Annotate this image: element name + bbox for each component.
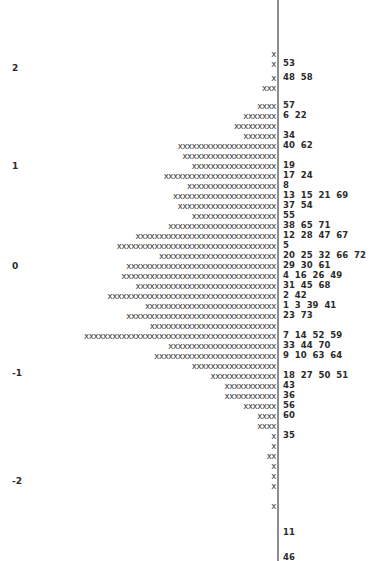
row-leaf-labels: 29 30 61 xyxy=(283,260,330,270)
row-mark-run: xxxxxxxxxxxxxxxxxxxxxxxxxxx xyxy=(150,321,276,331)
row-leaf-labels: 23 73 xyxy=(283,310,313,320)
row-mark-run: xxxxxxxxxxxxxxxxxxxxxxxxxxxxxxxxxxxxxxxx… xyxy=(84,331,276,341)
row-leaf-labels: 9 10 63 64 xyxy=(283,350,342,360)
plot-row: xxxxxxx6 22 xyxy=(0,111,380,121)
plot-row: xxxx57 xyxy=(0,101,380,111)
plot-row: xxxxxxxxxxxxxxxxxxxxxxxx17 24 xyxy=(0,171,380,181)
row-mark-run: xxxxxxxxxxxxxxxxxxxxxxxxxxxxxxxx xyxy=(126,311,276,321)
plot-row: x35 xyxy=(0,431,380,441)
row-mark-run: xxxxxxxxxxx xyxy=(225,391,276,401)
row-leaf-labels: 57 xyxy=(283,100,295,110)
row-leaf-labels: 34 xyxy=(283,130,295,140)
row-mark-run: xxxxxxxxxxxxxxxxxxxxxxxxxxxxxx xyxy=(136,281,276,291)
row-mark-run: x xyxy=(271,73,276,83)
row-mark-run: xxxxxxxxxxxxxxxxxxxxxxxxxxxx xyxy=(145,301,276,311)
row-mark-run: x xyxy=(271,501,276,511)
row-mark-run: xxxxxxxxxxxxxxxxxxx xyxy=(187,181,276,191)
row-leaf-labels: 19 xyxy=(283,160,295,170)
row-leaf-labels: 12 28 47 67 xyxy=(283,230,348,240)
row-leaf-labels: 56 xyxy=(283,400,295,410)
row-mark-run: xxxx xyxy=(257,411,276,421)
row-mark-run: xxxxxxx xyxy=(243,111,276,121)
stem-and-leaf-plot: 210-1-2 xx53x48 58xxxxxxx57xxxxxxx6 22xx… xyxy=(0,0,380,561)
plot-row: 46 xyxy=(0,553,380,561)
row-leaf-labels: 35 xyxy=(283,430,295,440)
row-mark-run: xxxxxxxxxxxxxxxxxxxxxxxxxxxxxxxxxxxx xyxy=(108,291,277,301)
plot-row: x xyxy=(0,49,380,59)
plot-row: xxxxxxxxxxxxxxxxxxxxxxxxxx9 10 63 64 xyxy=(0,351,380,361)
row-leaf-labels: 8 xyxy=(283,180,289,190)
row-leaf-labels: 2 42 xyxy=(283,290,307,300)
plot-row: xxxxxxxxxxxxxx18 27 50 51 xyxy=(0,371,380,381)
plot-row: xxxx60 xyxy=(0,411,380,421)
row-mark-run: xxxxxxx xyxy=(243,401,276,411)
row-leaf-labels: 46 xyxy=(283,552,295,561)
row-leaf-labels: 11 xyxy=(283,527,295,537)
row-mark-run: xxxxxxxxxxxxxxxxxxxxxxxxx xyxy=(159,251,276,261)
row-leaf-labels: 37 54 xyxy=(283,200,313,210)
row-leaf-labels: 17 24 xyxy=(283,170,313,180)
row-leaf-labels: 55 xyxy=(283,210,295,220)
row-leaf-labels: 53 xyxy=(283,58,295,68)
row-leaf-labels: 4 16 26 49 xyxy=(283,270,342,280)
row-mark-run: xxxxxxxxxxx xyxy=(225,381,276,391)
plot-row: xx xyxy=(0,451,380,461)
row-mark-run: xxxxxxxxxxxxxxxxxxxxxxx xyxy=(168,341,276,351)
row-leaf-labels: 38 65 71 xyxy=(283,220,330,230)
row-mark-run: x xyxy=(271,431,276,441)
row-mark-run: x xyxy=(271,441,276,451)
row-leaf-labels: 43 xyxy=(283,380,295,390)
plot-row: xxxx xyxy=(0,421,380,431)
plot-row: x xyxy=(0,481,380,491)
row-mark-run: xxxxxxxxxxxxxxxxxx xyxy=(192,161,276,171)
row-mark-run: xxxxxxxxxxxxxxxxxxxxxxxxxxxxxxxxxx xyxy=(117,241,276,251)
plot-row: 11 xyxy=(0,528,380,538)
plot-row: xxxxxxxxxxxxxxxxxxxxx37 54 xyxy=(0,201,380,211)
row-mark-run: xxxxxxxxxxxxxxxxxxxxxxxxxx xyxy=(154,351,276,361)
row-mark-run: xx xyxy=(267,451,276,461)
row-mark-run: xxxxxxxxxxxxxxxxxxxxxx xyxy=(173,191,276,201)
row-leaf-labels: 5 xyxy=(283,240,289,250)
row-mark-run: x xyxy=(271,49,276,59)
row-mark-run: xxxx xyxy=(257,421,276,431)
plot-row: xxx xyxy=(0,83,380,93)
row-mark-run: xxxxxxxxxxxxxxxxxxxxxxxxxxxxxx xyxy=(136,231,276,241)
row-mark-run: xxxxxxxxxxxxxxxxxxxxxxx xyxy=(168,221,276,231)
row-mark-run: xxxxxxxxx xyxy=(234,121,276,131)
row-leaf-labels: 60 xyxy=(283,410,295,420)
plot-row: xxxxxxx56 xyxy=(0,401,380,411)
row-mark-run: xxxxxxxxxxxxxxxxxxxxxxxx xyxy=(164,171,276,181)
plot-row: xxxxxxxxxxxxxxxxxxxxxx13 15 21 69 xyxy=(0,191,380,201)
plot-row: xxxxxxxxxxx43 xyxy=(0,381,380,391)
plot-row: x53 xyxy=(0,59,380,69)
plot-row: xxxxxxxxxxxxxxxxxxxxx40 62 xyxy=(0,141,380,151)
row-mark-run: x xyxy=(271,481,276,491)
plot-row: x xyxy=(0,441,380,451)
row-mark-run: x xyxy=(271,461,276,471)
plot-row: x48 58 xyxy=(0,73,380,83)
row-mark-run: xxxxxxxxxxxxxxxxxxxxxxxxxxxxxxxxx xyxy=(122,271,276,281)
plot-row-group: xx53x48 58xxxxxxx57xxxxxxx6 22xxxxxxxxxx… xyxy=(0,0,380,561)
row-mark-run: x xyxy=(271,471,276,481)
row-mark-run: xxxxxxx xyxy=(243,131,276,141)
row-mark-run: xxx xyxy=(262,83,276,93)
plot-row: xxxxxxx34 xyxy=(0,131,380,141)
row-mark-run: xxxxxxxxxxxxxxxxxxxx xyxy=(182,151,276,161)
row-mark-run: xxxxxxxxxxxxxxxxxx xyxy=(192,211,276,221)
row-leaf-labels: 48 58 xyxy=(283,72,313,82)
row-leaf-labels: 33 44 70 xyxy=(283,340,330,350)
row-leaf-labels: 36 xyxy=(283,390,295,400)
row-leaf-labels: 20 25 32 66 72 xyxy=(283,250,366,260)
row-leaf-labels: 6 22 xyxy=(283,110,307,120)
row-leaf-labels: 31 45 68 xyxy=(283,280,330,290)
plot-row: xxxxxxxxxxxxxxxxxxxxxxxxxxxxxx12 28 47 6… xyxy=(0,231,380,241)
row-leaf-labels: 7 14 52 59 xyxy=(283,330,342,340)
row-mark-run: xxxxxxxxxxxxxxxxxxxxxxxxxxxxxxxx xyxy=(126,261,276,271)
row-mark-run: xxxxxxxxxxxxxxxxxx xyxy=(192,361,276,371)
row-mark-run: xxxxxxxxxxxxxxxxxxxxx xyxy=(178,141,276,151)
row-mark-run: x xyxy=(271,59,276,69)
row-mark-run: xxxxxxxxxxxxxx xyxy=(210,371,276,381)
plot-row: xxxxxxxxxxx36 xyxy=(0,391,380,401)
row-leaf-labels: 13 15 21 69 xyxy=(283,190,348,200)
plot-row: xxxxxxxxxxxxxxxxxxxx xyxy=(0,151,380,161)
